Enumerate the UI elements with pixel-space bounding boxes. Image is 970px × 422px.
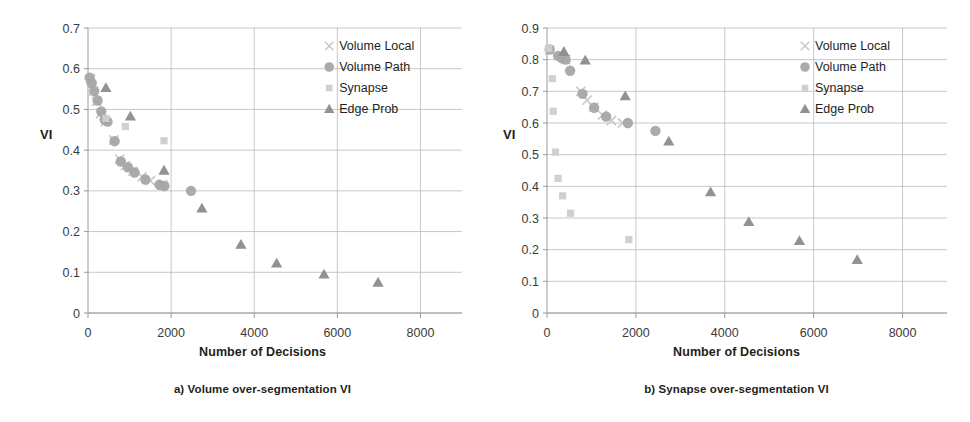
marker-square (625, 236, 632, 243)
figure-two-panel-scatter: 00.10.20.30.40.50.60.702000400060008000V… (0, 0, 970, 422)
y-tick-label: 0.5 (63, 103, 80, 117)
marker-triangle (100, 82, 111, 92)
legend-label-synapse: Synapse (339, 81, 388, 95)
chart-a-caption: a) Volume over-segmentation VI (0, 383, 485, 395)
x-tick-label: 0 (544, 326, 551, 340)
x-tick-label: 6000 (323, 326, 351, 340)
marker-triangle (196, 203, 207, 213)
marker-circle (109, 136, 119, 146)
marker-circle (565, 66, 575, 76)
marker-square (160, 137, 167, 144)
series-edge-prob (558, 46, 863, 264)
x-tick-label: 4000 (711, 326, 739, 340)
marker-square (567, 210, 574, 217)
marker-triangle (620, 90, 631, 100)
marker-triangle (271, 258, 282, 268)
marker-triangle (158, 165, 169, 175)
chart-b-plot-area: 00.10.20.30.40.50.60.70.80.9020004000600… (485, 0, 970, 345)
chart-b-y-axis-title: VI (503, 127, 516, 142)
y-tick-label: 0.6 (522, 117, 539, 131)
marker-triangle (705, 186, 716, 196)
marker-circle (159, 181, 169, 191)
y-tick-label: 0.9 (522, 22, 539, 36)
marker-square (552, 149, 559, 156)
marker-x (325, 42, 333, 50)
y-tick-label: 0.7 (522, 85, 539, 99)
marker-circle (623, 118, 633, 128)
y-tick-label: 0.1 (63, 266, 80, 280)
marker-circle (89, 86, 99, 96)
y-tick-label: 0.4 (63, 144, 80, 158)
panel-b-synapse-over-segmentation: 00.10.20.30.40.50.60.70.80.9020004000600… (485, 0, 970, 422)
legend-label-volume-path: Volume Path (815, 60, 886, 74)
marker-square (550, 108, 557, 115)
series-synapse (545, 45, 632, 243)
y-tick-label: 0.2 (63, 225, 80, 239)
marker-x (801, 42, 809, 50)
marker-circle (324, 62, 334, 72)
y-tick-label: 0.7 (63, 22, 80, 36)
marker-circle (650, 126, 660, 136)
y-tick-label: 0.3 (522, 212, 539, 226)
marker-square (559, 192, 566, 199)
marker-triangle (324, 104, 334, 113)
marker-square (326, 85, 333, 92)
marker-square (545, 45, 552, 52)
legend-label-volume-path: Volume Path (339, 60, 410, 74)
y-tick-label: 0 (532, 307, 539, 321)
legend-label-volume-local: Volume Local (815, 39, 890, 53)
marker-triangle (794, 235, 805, 245)
marker-circle (577, 89, 587, 99)
marker-square (122, 123, 129, 130)
marker-square (555, 175, 562, 182)
chart-b-caption: b) Synapse over-segmentation VI (485, 383, 970, 395)
y-tick-label: 0.2 (522, 243, 539, 257)
marker-triangle (318, 269, 329, 279)
marker-triangle (852, 254, 863, 264)
chart-a-plot-area: 00.10.20.30.40.50.60.702000400060008000V… (0, 0, 485, 345)
marker-triangle (663, 136, 674, 146)
marker-circle (589, 103, 599, 113)
chart-a-x-axis-title: Number of Decisions (0, 345, 485, 359)
legend-label-volume-local: Volume Local (339, 39, 414, 53)
marker-circle (186, 186, 196, 196)
marker-triangle (125, 111, 136, 121)
marker-circle (560, 54, 570, 64)
x-tick-label: 2000 (157, 326, 185, 340)
y-tick-label: 0.3 (63, 184, 80, 198)
y-tick-label: 0.4 (522, 180, 539, 194)
x-tick-label: 4000 (240, 326, 268, 340)
marker-circle (140, 174, 150, 184)
chart-a-y-axis-title: VI (40, 127, 53, 142)
y-tick-label: 0.6 (63, 62, 80, 76)
marker-triangle (800, 104, 810, 113)
chart-b-x-axis-title: Number of Decisions (485, 345, 970, 359)
y-tick-label: 0.1 (522, 275, 539, 289)
marker-circle (129, 167, 139, 177)
panel-a-volume-over-segmentation: 00.10.20.30.40.50.60.702000400060008000V… (0, 0, 485, 422)
x-tick-label: 2000 (622, 326, 650, 340)
series-volume-path (544, 44, 660, 136)
marker-square (102, 115, 109, 122)
marker-triangle (235, 239, 246, 249)
marker-square (549, 75, 556, 82)
marker-circle (92, 95, 102, 105)
y-tick-label: 0.5 (522, 148, 539, 162)
marker-triangle (372, 277, 383, 287)
y-tick-label: 0 (73, 307, 80, 321)
marker-circle (601, 111, 611, 121)
x-tick-label: 0 (85, 326, 92, 340)
y-tick-label: 0.8 (522, 53, 539, 67)
x-tick-label: 8000 (889, 326, 917, 340)
x-tick-label: 6000 (800, 326, 828, 340)
legend-label-synapse: Synapse (815, 81, 864, 95)
marker-square (802, 85, 809, 92)
marker-circle (800, 62, 810, 72)
legend-label-edge-prob: Edge Prob (815, 102, 874, 116)
x-tick-label: 8000 (407, 326, 435, 340)
legend-label-edge-prob: Edge Prob (339, 102, 398, 116)
